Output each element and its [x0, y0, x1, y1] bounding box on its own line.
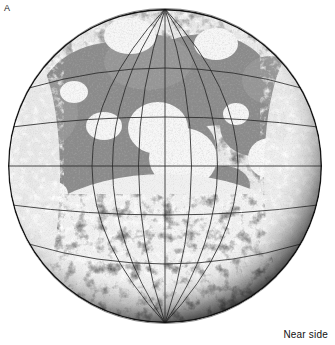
globe-container: [8, 8, 322, 324]
figure-caption: Near side: [283, 329, 328, 340]
moon-surface-svg: [8, 8, 322, 324]
moon-globe-near-side: [8, 8, 322, 324]
lunar-near-side-figure: A: [0, 0, 335, 345]
